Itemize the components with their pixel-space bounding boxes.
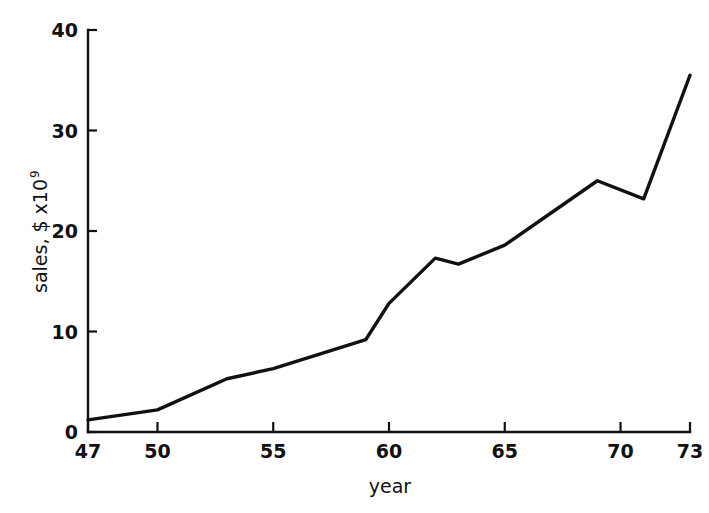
y-axis-title-superscript: 9: [28, 170, 42, 178]
x-tick-label: 50: [144, 440, 170, 462]
y-axis-title: sales, $ x10: [29, 179, 51, 293]
x-axis-tick-marks: [88, 422, 690, 432]
y-tick-label: 20: [52, 220, 78, 242]
y-tick-label: 10: [52, 321, 78, 343]
sales-data-line: [88, 75, 690, 420]
y-axis-title-group: sales, $ x10 9: [28, 170, 51, 293]
y-tick-label: 30: [52, 120, 78, 142]
x-tick-label: 47: [75, 440, 101, 462]
y-tick-label: 40: [52, 19, 78, 41]
line-chart-figure: 010203040 47505560657073 sales, $ x10 9 …: [0, 0, 709, 513]
y-axis-tick-labels: 010203040: [52, 19, 78, 443]
x-tick-label: 65: [492, 440, 518, 462]
x-axis-title: year: [369, 475, 412, 497]
x-tick-label: 73: [677, 440, 703, 462]
x-tick-label: 60: [376, 440, 402, 462]
y-axis-tick-marks: [88, 30, 97, 432]
x-tick-label: 55: [260, 440, 286, 462]
x-tick-label: 70: [607, 440, 633, 462]
x-axis-tick-labels: 47505560657073: [75, 440, 703, 462]
chart-canvas: 010203040 47505560657073 sales, $ x10 9 …: [0, 0, 709, 513]
